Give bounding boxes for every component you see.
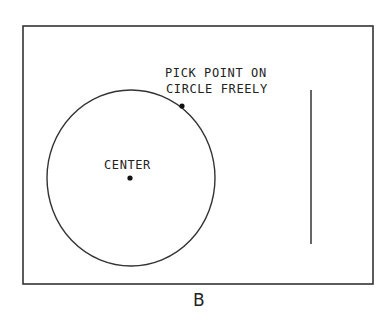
instruction-line-2: CIRCLE FREELY [166,82,268,96]
viewport-frame [23,26,373,284]
center-point-marker [127,175,132,180]
instruction-line-1: PICK POINT ON [165,66,267,80]
figure-caption: B [193,290,205,310]
pick-point-marker [179,103,184,108]
diagram-canvas: CENTER PICK POINT ON CIRCLE FREELY B [0,0,380,321]
center-label: CENTER [104,158,151,172]
